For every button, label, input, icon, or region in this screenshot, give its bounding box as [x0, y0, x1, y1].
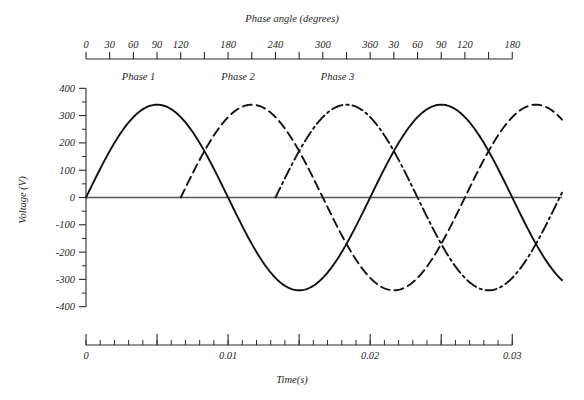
- top-axis-tick-label: 360: [361, 39, 379, 50]
- bottom-axis-tick-label: 0.03: [503, 350, 521, 361]
- top-axis-tick-label: 300: [314, 39, 332, 50]
- y-axis-tick-label: -200: [56, 247, 76, 258]
- y-axis-tick-label: -100: [56, 219, 76, 230]
- bottom-axis: 00.010.020.03: [83, 334, 521, 361]
- top-axis-tick-label: 0: [83, 39, 89, 50]
- series-label-1: Phase 1: [121, 71, 156, 82]
- top-axis-tick-label: 180: [220, 39, 237, 50]
- top-axis-title: Phase angle (degrees): [244, 13, 339, 25]
- top-axis-tick-label: 30: [103, 39, 115, 50]
- y-axis-tick-label: 200: [59, 137, 76, 148]
- y-axis-title: Voltage (V): [17, 176, 29, 224]
- y-axis-tick-label: 0: [70, 192, 76, 203]
- bottom-axis-tick-label: 0.02: [361, 350, 380, 361]
- y-axis-tick-label: 300: [58, 110, 76, 121]
- y-axis-tick-label: 400: [59, 83, 76, 94]
- series-annotations: Phase 1Phase 2Phase 3: [121, 71, 354, 82]
- top-axis-tick-label: 90: [152, 39, 163, 50]
- top-axis-tick-label: 30: [388, 39, 400, 50]
- series-label-2: Phase 2: [220, 71, 255, 82]
- y-axis-tick-label: 100: [59, 165, 76, 176]
- y-axis-tick-label: -400: [56, 301, 76, 312]
- top-axis-tick-label: 240: [268, 39, 285, 50]
- top-axis-tick-label: 180: [504, 39, 521, 50]
- waveform-chart: Phase angle (degrees) 030609012018024030…: [0, 0, 584, 400]
- y-axis: 4003002001000-100-200-300-400: [56, 83, 86, 312]
- y-axis-tick-label: -300: [56, 274, 76, 285]
- top-axis-tick-label: 120: [173, 39, 190, 50]
- top-axis-tick-label: 60: [128, 39, 139, 50]
- top-axis: 0306090120180240300360306090120180: [83, 39, 521, 59]
- x-axis-title: Time(s): [276, 374, 308, 386]
- bottom-axis-tick-label: 0: [83, 350, 89, 361]
- top-axis-tick-label: 120: [457, 39, 474, 50]
- top-axis-tick-label: 90: [436, 39, 447, 50]
- top-axis-tick-label: 60: [412, 39, 423, 50]
- bottom-axis-tick-label: 0.01: [219, 350, 237, 361]
- series-label-3: Phase 3: [320, 71, 355, 82]
- chart-figure: Phase angle (degrees) 030609012018024030…: [0, 0, 584, 400]
